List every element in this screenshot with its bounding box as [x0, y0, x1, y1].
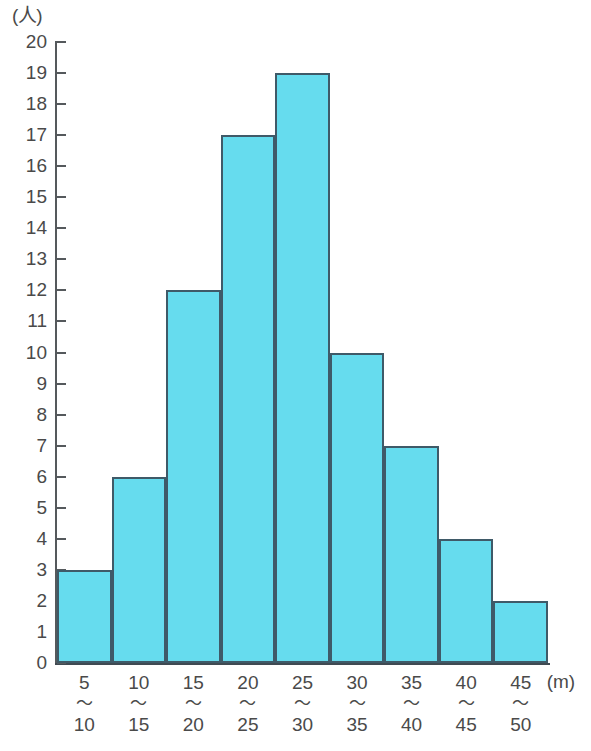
x-axis-tick-label: 25〜30 — [273, 672, 333, 736]
x-label-upper: 10 — [74, 714, 95, 735]
histogram-bar — [275, 73, 330, 663]
x-label-separator: 〜 — [491, 694, 551, 714]
histogram-bar — [57, 570, 112, 663]
x-label-separator: 〜 — [382, 694, 442, 714]
y-axis-tick-label: 8 — [3, 405, 47, 424]
x-label-lower: 35 — [401, 672, 422, 693]
histogram-bar — [384, 446, 439, 663]
x-axis-tick-label: 20〜25 — [218, 672, 278, 736]
y-axis-tick-label: 14 — [3, 218, 47, 237]
y-axis-tick-label: 0 — [3, 653, 47, 672]
x-label-separator: 〜 — [327, 694, 387, 714]
x-label-upper: 50 — [510, 714, 531, 735]
x-label-separator: 〜 — [218, 694, 278, 714]
y-axis-tick-label: 20 — [3, 32, 47, 51]
histogram-bar — [221, 135, 276, 663]
x-label-lower: 5 — [79, 672, 90, 693]
histogram-bar — [166, 290, 221, 663]
x-axis-tick-label: 30〜35 — [327, 672, 387, 736]
x-axis-tick-label: 5〜10 — [54, 672, 114, 736]
x-label-upper: 35 — [346, 714, 367, 735]
x-label-lower: 45 — [510, 672, 531, 693]
x-label-lower: 10 — [128, 672, 149, 693]
y-axis-tick-label: 11 — [3, 311, 47, 330]
y-axis-tick-label: 16 — [3, 156, 47, 175]
y-axis-tick-label: 7 — [3, 436, 47, 455]
x-label-upper: 30 — [292, 714, 313, 735]
x-label-upper: 20 — [183, 714, 204, 735]
y-axis-tick-label: 13 — [3, 249, 47, 268]
plot-area — [57, 42, 548, 663]
x-label-lower: 30 — [346, 672, 367, 693]
x-axis-tick-label: 45〜50 — [491, 672, 551, 736]
y-axis-tick-label: 1 — [3, 622, 47, 641]
y-axis-tick-label: 4 — [3, 529, 47, 548]
x-label-separator: 〜 — [54, 694, 114, 714]
x-label-lower: 20 — [237, 672, 258, 693]
y-axis-tick-label: 2 — [3, 591, 47, 610]
x-label-upper: 40 — [401, 714, 422, 735]
y-axis-tick-label: 5 — [3, 498, 47, 517]
histogram-bar — [330, 353, 385, 664]
x-label-upper: 45 — [456, 714, 477, 735]
x-label-lower: 25 — [292, 672, 313, 693]
x-label-upper: 25 — [237, 714, 258, 735]
y-axis-tick-label: 3 — [3, 560, 47, 579]
y-axis-unit-label: (人) — [12, 6, 42, 25]
y-axis-tick-label: 17 — [3, 125, 47, 144]
x-label-separator: 〜 — [273, 694, 333, 714]
y-axis-tick-label: 19 — [3, 63, 47, 82]
x-axis-tick-label: 35〜40 — [382, 672, 442, 736]
x-axis-line — [55, 663, 550, 665]
y-axis-tick-label: 15 — [3, 187, 47, 206]
x-label-upper: 15 — [128, 714, 149, 735]
x-label-separator: 〜 — [109, 694, 169, 714]
x-label-lower: 40 — [456, 672, 477, 693]
y-axis-tick-label: 12 — [3, 280, 47, 299]
x-axis-unit-label: (m) — [547, 672, 575, 691]
x-label-separator: 〜 — [163, 694, 223, 714]
histogram-bar — [112, 477, 167, 663]
x-axis-tick-label: 10〜15 — [109, 672, 169, 736]
y-axis-tick-label: 6 — [3, 467, 47, 486]
x-label-lower: 15 — [183, 672, 204, 693]
histogram-bar — [493, 601, 548, 663]
y-axis-tick-label: 10 — [3, 343, 47, 362]
y-axis-tick-label: 9 — [3, 374, 47, 393]
x-axis-tick-label: 40〜45 — [436, 672, 496, 736]
x-axis-tick-label: 15〜20 — [163, 672, 223, 736]
histogram-bar — [439, 539, 494, 663]
y-axis-tick-label: 18 — [3, 94, 47, 113]
x-label-separator: 〜 — [436, 694, 496, 714]
